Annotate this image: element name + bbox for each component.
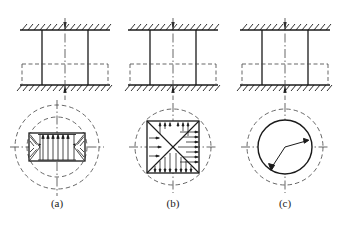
panel-c-caption: (c) xyxy=(279,197,292,210)
column-section-figure: (a) xyxy=(0,0,344,225)
panel-a-caption: (a) xyxy=(51,197,64,210)
figure-root: (a) xyxy=(0,0,344,225)
panel-b-caption: (b) xyxy=(167,197,180,210)
figure-background xyxy=(0,0,344,225)
